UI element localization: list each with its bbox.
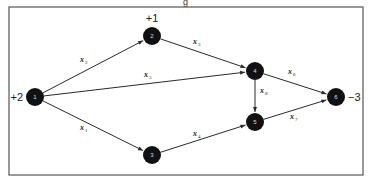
node-supply-label: +1 (146, 12, 159, 24)
edge-label-x7: x7 (289, 112, 298, 122)
edge-label-x4: x4 (192, 129, 201, 139)
edge-x3 (161, 39, 246, 68)
node-supply-label: −3 (348, 91, 361, 103)
node-6: 6−3 (327, 88, 361, 106)
node-4: 4 (246, 62, 264, 80)
node-3: 3 (143, 146, 161, 164)
edge-x2 (43, 41, 143, 93)
edge-x1 (43, 101, 143, 151)
node-supply-label: +2 (10, 91, 23, 103)
node-2: 2+1 (143, 12, 161, 45)
edge-label-x3: x3 (192, 37, 201, 47)
edges-layer: x1x2x3x4x5x6x7x8 (43, 37, 326, 152)
edge-label-x1: x1 (79, 123, 88, 133)
figure-title-fragment: g (183, 0, 188, 7)
node-1: 1+2 (10, 88, 44, 106)
edge-label-x8: x8 (259, 86, 268, 96)
edge-label-x5: x5 (143, 70, 152, 80)
edge-label-x2: x2 (79, 55, 88, 65)
edge-label-x6: x6 (287, 67, 296, 77)
edge-x4 (161, 125, 246, 152)
network-flow-diagram: g x1x2x3x4x5x6x7x8 1+22+13456−3 (0, 0, 371, 182)
node-5: 5 (246, 113, 264, 131)
diagram-frame (9, 7, 363, 175)
